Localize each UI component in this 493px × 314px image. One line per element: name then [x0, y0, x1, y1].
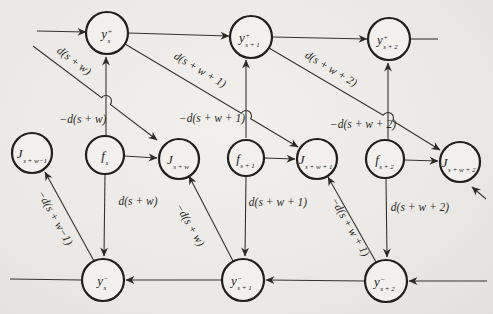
node-label-y-plus-s2: y	[375, 32, 383, 47]
edge-d-sw-diag-label: d(s + w)	[54, 44, 93, 78]
edge-neg-d-sw-up-label: −d(s + w)	[60, 113, 107, 126]
edge-yplus-s1-to-s2	[272, 37, 367, 39]
edge-yminus-s2-to-s1	[266, 280, 365, 281]
edge-d-sw-down-label: d(s + w)	[118, 195, 157, 208]
node-label-y-minus-s2: y	[372, 274, 380, 289]
node-sup-y-minus-s: −	[103, 275, 108, 283]
edge-f-s2-to-j-sw2	[404, 160, 438, 161]
node-circle-f-s1	[228, 140, 264, 176]
node-circle-j-sw	[159, 139, 199, 179]
node-sup-y-plus-s2: +	[383, 34, 388, 42]
node-sub-y-minus-s: s	[103, 284, 106, 292]
node-y-minus-s: y−s	[82, 259, 124, 301]
edge-neg-d-sw-diag	[189, 176, 233, 261]
flow-graph-figure: y+sy+s + 1y+s + 2Js + w−1fsJs + wfs + 1J…	[0, 0, 493, 314]
node-sup-y-plus-s: +	[107, 28, 112, 36]
node-sub-j-sw: s + w	[173, 163, 189, 171]
node-j-sw1: Js + w + 1	[297, 139, 337, 179]
node-y-plus-s2: y+s + 2	[368, 18, 410, 60]
node-j-sw: Js + w	[159, 139, 199, 179]
edge-neg-d-sw2-diag	[472, 187, 486, 199]
node-y-plus-s: y+s	[86, 12, 128, 54]
edge-d-sw-diag	[33, 46, 157, 140]
edge-d-sw-down	[104, 174, 105, 256]
edge-neg-d-swm1-diag-label: −d(s + w−1)	[35, 188, 76, 247]
node-j-sw2: Js + w + 2	[440, 142, 480, 182]
node-sup-y-minus-s2: −	[380, 276, 385, 284]
edge-neg-d-sw1-up-label: −d(s + w + 1)	[179, 112, 245, 125]
node-sub-f-s: s	[105, 159, 108, 167]
edge-d-sw1-diag-label: d(s + w + 1)	[172, 49, 229, 90]
node-sub-y-plus-s1: s + 1	[245, 41, 259, 49]
node-circle-y-minus-s1	[222, 259, 264, 301]
node-sub-y-plus-s2: s + 2	[383, 43, 398, 51]
flow-graph-canvas: y+sy+s + 1y+s + 2Js + w−1fsJs + wfs + 1J…	[0, 0, 493, 314]
node-sup-y-minus-s1: −	[237, 275, 242, 283]
edge-yminus-s-out	[10, 279, 82, 280]
edge-yplus-s-to-s1	[128, 33, 229, 36]
node-y-minus-s2: y−s + 2	[365, 260, 407, 302]
node-sub-y-plus-s: s	[107, 37, 110, 45]
node-sub-j-sw2: s + w + 2	[448, 166, 476, 174]
edge-neg-d-sw-diag-label: −d(s + w)	[173, 201, 208, 248]
node-f-s1: fs + 1	[228, 140, 264, 176]
nodes-layer: y+sy+s + 1y+s + 2Js + w−1fsJs + wfs + 1J…	[12, 12, 480, 302]
edge-d-sw2-diag	[269, 48, 440, 150]
node-sub-j-sw-minus1: s + w−1	[23, 157, 47, 165]
node-y-minus-s1: y−s + 1	[222, 259, 264, 301]
edge-f-s-to-j-sw	[124, 156, 157, 158]
edge-f-s1-to-j-sw1	[264, 158, 295, 159]
node-label-y-minus-s: y	[95, 273, 103, 288]
node-circle-f-s2	[366, 140, 404, 178]
node-circle-f-s	[86, 136, 124, 174]
node-circle-y-plus-s2	[368, 18, 410, 60]
edge-d-sw2-diag-label: d(s + w + 2)	[303, 48, 360, 89]
node-sub-f-s2: s + 2	[379, 163, 394, 171]
node-sup-y-plus-s1: +	[245, 32, 250, 40]
node-sub-j-sw1: s + w + 1	[305, 163, 332, 171]
edge-neg-d-sw1-diag-label: −d(s + w + 1)	[328, 195, 372, 259]
node-f-s: fs	[86, 136, 124, 174]
node-circle-y-plus-s1	[230, 16, 272, 58]
node-label-y-plus-s1: y	[237, 30, 245, 45]
node-sub-y-minus-s2: s + 2	[380, 285, 395, 293]
node-label-y-plus-s: y	[99, 26, 107, 41]
edge-d-sw2-down	[386, 178, 387, 257]
node-sub-y-minus-s1: s + 1	[237, 284, 251, 292]
node-sub-f-s1: s + 1	[240, 162, 254, 170]
edge-d-sw1-down-label: d(s + w + 1)	[249, 196, 307, 209]
node-y-plus-s1: y+s + 1	[230, 16, 272, 58]
node-f-s2: fs + 2	[366, 140, 404, 178]
node-circle-y-minus-s2	[365, 260, 407, 302]
node-label-y-minus-s1: y	[229, 273, 237, 288]
edge-d-sw1-diag	[125, 44, 298, 147]
edge-d-sw2-down-label: d(s + w + 2)	[391, 201, 449, 214]
edge-input-left	[37, 31, 86, 32]
edge-neg-d-sw2-up-label: −d(s + w + 2)	[330, 118, 396, 131]
edge-d-sw1-down	[245, 176, 246, 256]
node-j-sw-minus1: Js + w−1	[12, 133, 52, 173]
